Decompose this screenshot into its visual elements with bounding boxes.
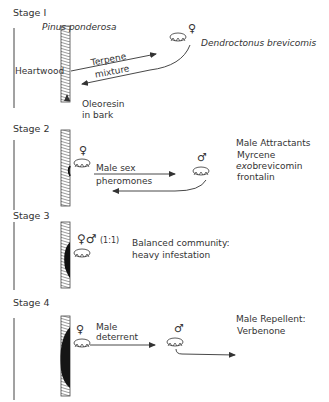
repellent-verbenone: Verbenone bbox=[237, 326, 285, 336]
male-symbol: ♂ bbox=[197, 152, 207, 163]
diagram-graphics bbox=[0, 0, 329, 402]
stage-4-graphics bbox=[14, 316, 235, 400]
stage-1-label: Stage I bbox=[13, 8, 46, 18]
heartwood-label: Heartwood bbox=[15, 66, 64, 76]
female-symbol: ♀ bbox=[79, 145, 87, 156]
male-symbol: ♂ bbox=[174, 323, 184, 334]
beetle-icon bbox=[170, 33, 186, 41]
sex-ratio: (1:1) bbox=[100, 236, 119, 246]
female-symbol: ♀ bbox=[76, 324, 84, 335]
bark-strip bbox=[61, 26, 70, 102]
male-sex-label: Male sex bbox=[96, 163, 136, 173]
stage-2-label: Stage 2 bbox=[13, 124, 50, 134]
attractant-frontalin: frontalin bbox=[237, 172, 275, 182]
stage-3-label: Stage 3 bbox=[13, 211, 50, 221]
brevicomin-text: brevicomin bbox=[252, 161, 302, 171]
pheromones-label: pheromones bbox=[96, 176, 152, 186]
oleoresin-label: Oleoresin bbox=[82, 99, 125, 109]
exo-prefix: exo bbox=[236, 161, 252, 171]
heavy-infestation-label: heavy infestation bbox=[132, 250, 210, 260]
attractants-heading: Male Attractants bbox=[236, 138, 310, 148]
female-symbol: ♀ bbox=[188, 23, 196, 34]
attractant-myrcene: Myrcene bbox=[237, 150, 275, 160]
insect-name: Dendroctonus brevicomis bbox=[201, 38, 316, 48]
tree-name: Pinus ponderosa bbox=[42, 22, 116, 32]
in-bark-label: in bark bbox=[82, 110, 113, 120]
repellent-heading: Male Repellent: bbox=[236, 314, 306, 324]
attractant-exobrevicomin: exobrevicomin bbox=[236, 161, 302, 171]
deterrent-label: deterrent bbox=[96, 332, 138, 342]
sex-symbols: ♀♂ bbox=[77, 234, 97, 245]
male-label: Male bbox=[96, 322, 117, 332]
balanced-community-label: Balanced community: bbox=[132, 238, 230, 248]
diagram-root: Stage I Pinus ponderosa Heartwood Terpen… bbox=[0, 0, 329, 402]
stage-4-label: Stage 4 bbox=[13, 298, 50, 308]
